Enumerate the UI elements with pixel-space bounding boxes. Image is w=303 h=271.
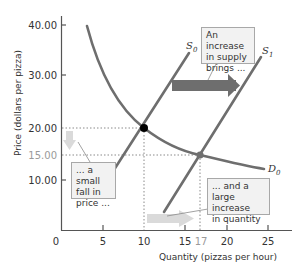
x-tick-labels: 0 5 10 15 17 20 25: [53, 236, 275, 247]
x-tick-5: 5: [100, 236, 106, 247]
y-tick-20: 20.00: [28, 123, 57, 134]
equilibrium-point-new: [196, 151, 203, 158]
svg-text:S: S: [186, 40, 193, 51]
x-tick-0: 0: [53, 236, 59, 247]
supply-demand-chart: 40.00 30.00 20.00 15.00 10.00 0 5 10 15 …: [0, 0, 303, 271]
x-tick-15: 15: [179, 236, 192, 247]
callout-line: brings ...: [206, 63, 250, 74]
svg-text:D: D: [267, 163, 276, 174]
label-s1: S 1: [262, 45, 273, 59]
y-tick-30: 30.00: [28, 70, 57, 81]
x-tick-17: 17: [195, 236, 208, 247]
callout-quantity-increase: ... and a large increase in quantity: [207, 178, 270, 215]
svg-text:1: 1: [269, 51, 273, 59]
callout-line: An increase: [206, 30, 250, 52]
x-axis-title: Quantity (pizzas per hour): [159, 252, 277, 262]
callout-line: ... and a: [212, 181, 265, 192]
x-tick-25: 25: [262, 236, 275, 247]
equilibrium-point-initial: [140, 124, 148, 132]
svg-text:S: S: [262, 45, 269, 56]
y-axis-title: Price (dollars per pizza): [13, 50, 23, 156]
callout-line: fall in: [76, 187, 111, 198]
x-tick-20: 20: [221, 236, 234, 247]
label-s0: S 0: [186, 40, 198, 54]
svg-text:0: 0: [193, 46, 198, 54]
callout-price-fall: ... a small fall in price ...: [71, 162, 116, 199]
x-tick-10: 10: [138, 236, 151, 247]
callout-line: in supply: [206, 52, 250, 63]
supply-shift-arrow: [172, 74, 240, 97]
leader-price: [78, 142, 90, 162]
callout-line: ... a small: [76, 165, 111, 187]
y-tick-labels: 40.00 30.00 20.00 15.00 10.00: [28, 20, 57, 186]
y-tick-40: 40.00: [28, 20, 57, 31]
callout-line: in quantity: [212, 214, 265, 225]
price-fall-arrow: [63, 131, 76, 150]
svg-text:0: 0: [276, 169, 281, 177]
y-tick-15: 15.00: [28, 150, 57, 161]
y-tick-10: 10.00: [28, 175, 57, 186]
label-d0: D 0: [267, 163, 281, 177]
supply-curve-s0: [110, 53, 189, 176]
callout-line: price ...: [76, 198, 111, 209]
callout-line: large increase: [212, 192, 265, 214]
callout-supply-increase: An increase in supply brings ...: [201, 27, 255, 64]
